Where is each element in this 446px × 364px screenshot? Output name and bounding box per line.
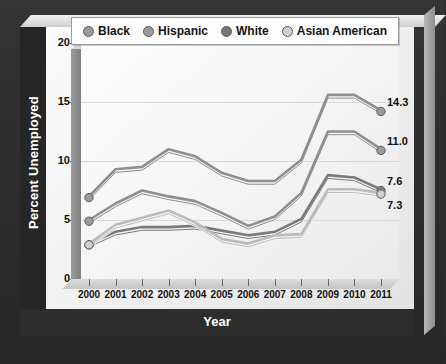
x-tick-mark	[142, 279, 143, 286]
x-axis-title: Year	[20, 309, 414, 335]
x-tick-mark	[169, 279, 170, 286]
x-tick-mark	[381, 279, 382, 286]
series-lines	[81, 43, 399, 279]
x-axis-ticks: 2000200120022003200420052006200720082009…	[81, 289, 399, 307]
legend-item-asian-american[interactable]: Asian American	[282, 24, 387, 38]
x-tick-mark	[275, 279, 276, 286]
legend-item-label: Black	[98, 24, 130, 38]
y-axis-ticks: 05101520	[46, 43, 70, 279]
plaque-right-bevel	[424, 6, 435, 335]
legend-item-label: Hispanic	[158, 24, 208, 38]
x-tick-mark	[301, 279, 302, 286]
x-tick-mark	[89, 279, 90, 286]
series-point-marker	[85, 193, 93, 201]
series-point-marker	[85, 217, 93, 225]
series-ribbon-underside	[89, 135, 381, 229]
y-tick-label: 20	[48, 36, 70, 48]
x-tick-mark	[116, 279, 117, 286]
y-axis-title: Percent Unemployed	[26, 37, 41, 289]
legend-marker-icon	[282, 26, 293, 37]
legend-marker-icon	[143, 26, 154, 37]
x-axis-title-bar: Year	[20, 309, 414, 335]
series-end-label: 14.3	[387, 96, 408, 108]
series-point-marker	[377, 190, 385, 198]
x-tick-mark	[248, 279, 249, 286]
series-line-white	[89, 175, 381, 243]
series-end-label: 11.0	[387, 135, 408, 147]
legend-item-label: White	[236, 24, 269, 38]
y-tick-label: 10	[48, 154, 70, 166]
x-tick-label: 2011	[364, 289, 398, 300]
series-end-label: 7.3	[387, 199, 402, 211]
x-tick-mark	[222, 279, 223, 286]
x-tick-mark	[328, 279, 329, 286]
plot-left-wall	[71, 49, 81, 285]
y-axis-title-bar: Percent Unemployed	[20, 27, 46, 309]
series-end-label: 7.6	[387, 175, 402, 187]
series-ribbon-underside	[89, 98, 381, 199]
x-tick-mark	[354, 279, 355, 286]
series-point-marker	[85, 241, 93, 249]
series-ribbon-edge	[89, 98, 381, 199]
legend-item-white[interactable]: White	[221, 24, 269, 38]
x-tick-mark	[195, 279, 196, 286]
y-tick-label: 5	[48, 213, 70, 225]
legend-item-black[interactable]: Black	[83, 24, 130, 38]
legend-marker-icon	[83, 26, 94, 37]
series-point-marker	[377, 146, 385, 154]
legend-marker-icon	[221, 26, 232, 37]
plot-area	[81, 43, 399, 279]
y-tick-label: 15	[48, 95, 70, 107]
chart-panel: BlackHispanicWhiteAsian American 0510152…	[46, 27, 414, 309]
series-ribbon-edge	[89, 135, 381, 229]
legend-item-label: Asian American	[297, 24, 387, 38]
plot-floor	[63, 279, 399, 289]
legend-item-hispanic[interactable]: Hispanic	[143, 24, 208, 38]
series-point-marker	[377, 107, 385, 115]
chart-legend: BlackHispanicWhiteAsian American	[71, 17, 399, 45]
